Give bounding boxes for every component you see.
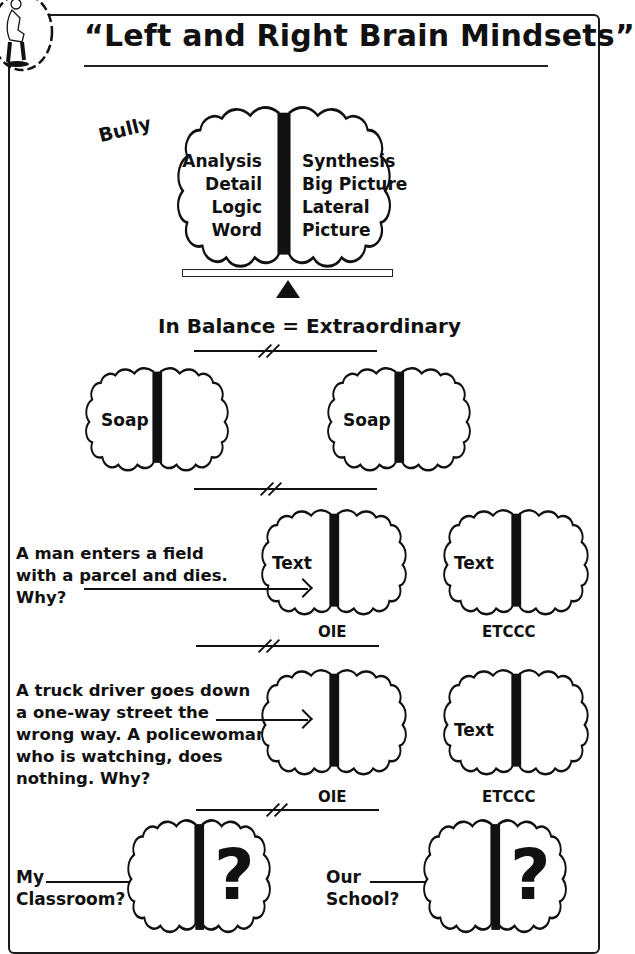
page-title: “Left and Right Brain Mindsets”	[84, 18, 564, 53]
puzzle-2-brain-b-caption: ETCCC	[482, 788, 536, 806]
puzzle-2-brain-a-caption: OIE	[318, 788, 347, 806]
arrow-icon	[84, 588, 308, 590]
right-hemisphere-list: Synthesis Big Picture Lateral Picture	[302, 150, 407, 242]
soap-label-left: Soap	[101, 410, 149, 430]
our-school-label: Our School?	[326, 866, 399, 910]
left-hemisphere-list: Analysis Detail Logic Word	[178, 150, 262, 242]
section-divider-1	[194, 350, 377, 352]
section-divider-4	[196, 809, 379, 811]
section-divider-2	[194, 488, 377, 490]
thinker-statue-icon	[0, 0, 58, 78]
soap-label-right: Soap	[343, 410, 391, 430]
balance-caption: In Balance = Extraordinary	[158, 314, 461, 338]
puzzle-1-question: A man enters a field with a parcel and d…	[16, 543, 228, 609]
puzzle-2-brain-b-label: Text	[454, 720, 494, 740]
balance-beam	[182, 269, 393, 277]
brain-puzzle-2-oie	[258, 668, 410, 778]
question-mark-icon: ?	[510, 830, 551, 920]
section-divider-3	[196, 645, 379, 647]
puzzle-1-brain-b-label: Text	[454, 553, 494, 573]
fulcrum-icon	[276, 280, 300, 298]
puzzle-2-question: A truck driver goes down a one-way stree…	[16, 680, 274, 790]
puzzle-1-brain-a-caption: OIE	[318, 623, 347, 641]
my-classroom-label: My Classroom?	[16, 866, 125, 910]
question-mark-icon: ?	[214, 830, 255, 920]
arrow-icon	[216, 719, 308, 721]
puzzle-1-brain-b-caption: ETCCC	[482, 623, 536, 641]
puzzle-1-brain-a-label: Text	[272, 553, 312, 573]
title-underline	[84, 65, 548, 67]
